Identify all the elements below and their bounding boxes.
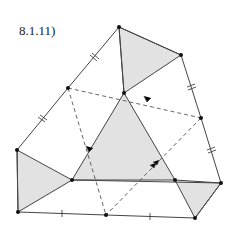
shaded-triangle-top xyxy=(119,27,181,93)
shaded-triangle-center xyxy=(72,93,175,180)
geometry-diagram xyxy=(0,0,242,241)
shaded-triangle-left xyxy=(17,150,72,212)
shaded-triangle-right xyxy=(175,180,221,218)
